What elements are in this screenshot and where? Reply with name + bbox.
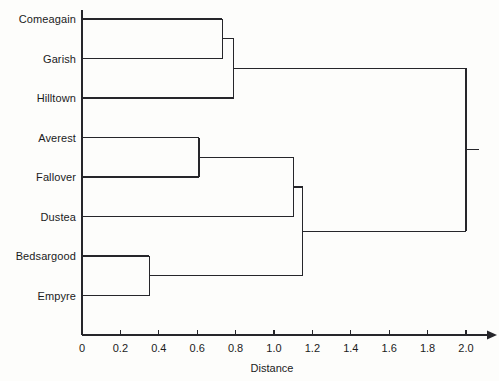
x-tick-label-6: 1.2: [305, 342, 320, 354]
x-tick-label-0: 0: [79, 342, 85, 354]
x-axis-arrow-icon: [487, 331, 497, 340]
x-tick-label-9: 1.8: [420, 342, 435, 354]
leaf-label-averest: Averest: [38, 132, 76, 144]
x-tick-label-2: 0.4: [151, 342, 166, 354]
leaf-label-fallover: Fallover: [36, 171, 76, 183]
leaf-label-dustea: Dustea: [41, 211, 76, 223]
leaf-label-bedsargood: Bedsargood: [16, 250, 76, 262]
x-tick-label-1: 0.2: [113, 342, 128, 354]
leaf-label-comeagain: Comeagain: [19, 13, 76, 25]
leaf-label-empyre: Empyre: [38, 290, 77, 302]
x-tick-label-7: 1.4: [343, 342, 358, 354]
leaf-label-garish: Garish: [43, 53, 76, 65]
leaf-label-hilltown: Hilltown: [37, 92, 76, 104]
x-tick-label-4: 0.8: [228, 342, 243, 354]
dendrogram-figure: ComeagainGarishHilltownAverestFalloverDu…: [0, 0, 499, 381]
x-tick-label-10: 2.0: [458, 342, 473, 354]
x-tick-label-8: 1.6: [382, 342, 397, 354]
x-tick-label-3: 0.6: [190, 342, 205, 354]
x-axis-title: Distance: [251, 362, 294, 374]
x-tick-label-5: 1.0: [266, 342, 281, 354]
